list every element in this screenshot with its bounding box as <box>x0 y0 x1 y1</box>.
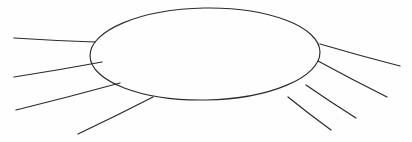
figure-background <box>0 0 412 142</box>
figure-canvas: Sun diagram A hand-drawn oval with eight… <box>0 0 412 142</box>
sun-diagram: Sun diagram A hand-drawn oval with eight… <box>0 0 412 142</box>
